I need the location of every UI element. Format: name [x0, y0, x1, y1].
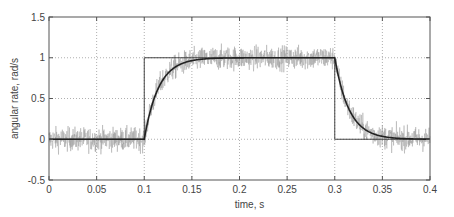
y-tick-label: 0.5 — [31, 93, 45, 104]
x-tick-label: 0.2 — [233, 184, 247, 195]
x-tick-label: 0.05 — [87, 184, 107, 195]
x-axis-label: time, s — [235, 199, 264, 210]
x-tick-label: 0.3 — [328, 184, 342, 195]
y-tick-label: 1.5 — [31, 12, 45, 23]
y-tick-label: 0 — [39, 134, 45, 145]
y-tick-label: 1 — [39, 52, 45, 63]
x-tick-label: 0.1 — [137, 184, 151, 195]
x-tick-label: 0 — [46, 184, 52, 195]
y-tick-label: -0.5 — [28, 175, 46, 186]
x-tick-label: 0.25 — [277, 184, 297, 195]
x-tick-label: 0.15 — [182, 184, 202, 195]
x-tick-label: 0.4 — [423, 184, 437, 195]
x-tick-label: 0.35 — [373, 184, 393, 195]
y-axis-label: angular rate, rad/s — [9, 58, 20, 139]
chart: 00.050.10.150.20.250.30.350.4 -0.500.511… — [0, 0, 454, 217]
